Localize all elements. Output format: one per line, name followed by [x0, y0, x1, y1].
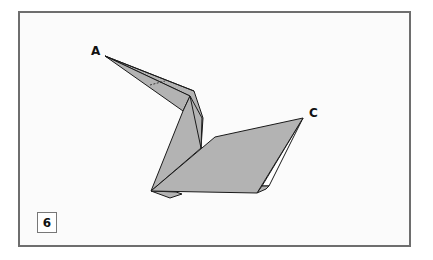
- point-c-label: C: [309, 107, 318, 119]
- head-beak: [105, 56, 190, 111]
- step-number: 6: [43, 216, 51, 230]
- point-a-label: A: [91, 45, 100, 57]
- origami-swan-figure: [0, 0, 433, 260]
- step-number-badge: 6: [37, 212, 57, 233]
- underside-flap: [151, 191, 182, 198]
